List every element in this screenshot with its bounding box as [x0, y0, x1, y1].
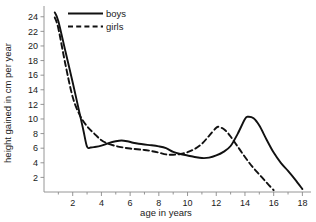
- y-axis-title: height gained in cm per year: [2, 43, 13, 163]
- y-tick-label: 8: [33, 129, 38, 139]
- y-tick-label: 14: [28, 85, 38, 95]
- chart-canvas: 24681012141618202224 24681012141618 boys…: [0, 0, 316, 222]
- y-axis: 24681012141618202224: [28, 6, 44, 192]
- series-line-boys: [55, 12, 303, 189]
- x-tick-label: 6: [128, 198, 133, 208]
- y-axis-tick-labels: 24681012141618202224: [28, 12, 38, 183]
- y-tick-label: 2: [33, 173, 38, 183]
- y-tick-label: 4: [33, 158, 38, 168]
- y-axis-ticks: [41, 17, 45, 178]
- legend-label-boys: boys: [106, 8, 126, 19]
- x-axis: 24681012141618: [44, 192, 311, 208]
- y-tick-label: 16: [28, 70, 38, 80]
- legend: boys girls: [68, 8, 126, 32]
- legend-label-girls: girls: [106, 21, 124, 32]
- series-line-girls: [55, 17, 274, 190]
- y-tick-label: 6: [33, 143, 38, 153]
- x-tick-label: 12: [211, 198, 221, 208]
- x-tick-label: 16: [269, 198, 279, 208]
- y-tick-label: 12: [28, 100, 38, 110]
- x-tick-label: 4: [99, 198, 104, 208]
- x-tick-label: 18: [297, 198, 307, 208]
- y-tick-label: 20: [28, 41, 38, 51]
- x-tick-label: 2: [70, 198, 75, 208]
- y-tick-label: 22: [28, 27, 38, 37]
- plot-series-group: [55, 12, 303, 190]
- x-tick-label: 14: [240, 198, 250, 208]
- x-axis-ticks: [73, 192, 303, 196]
- y-tick-label: 18: [28, 56, 38, 66]
- y-tick-label: 10: [28, 114, 38, 124]
- x-axis-title: age in years: [140, 207, 192, 218]
- y-tick-label: 24: [28, 12, 38, 22]
- growth-velocity-chart: 24681012141618202224 24681012141618 boys…: [0, 0, 316, 222]
